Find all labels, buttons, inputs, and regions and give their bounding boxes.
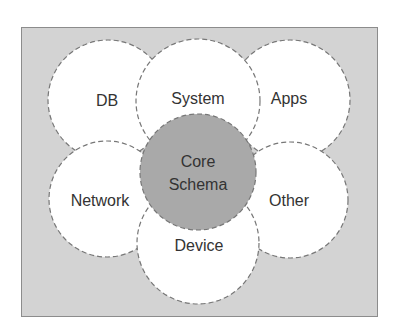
core-label-line2: Schema	[169, 176, 228, 193]
node-label-system: System	[171, 90, 224, 107]
node-label-db: DB	[96, 92, 118, 109]
node-label-other: Other	[269, 192, 310, 209]
core-label-line1: Core	[181, 153, 216, 170]
node-label-network: Network	[71, 192, 131, 209]
node-label-device: Device	[175, 237, 224, 254]
core-schema-circle	[140, 114, 256, 230]
schema-diagram: DB System Apps Network Other Device Core…	[0, 0, 395, 333]
node-label-apps: Apps	[271, 90, 307, 107]
